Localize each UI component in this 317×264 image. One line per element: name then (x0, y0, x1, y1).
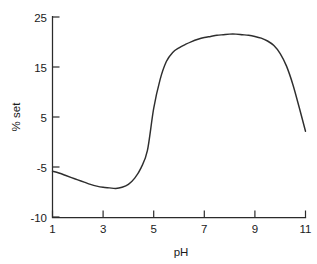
axis-frame (53, 17, 306, 218)
y-tick-labels: 25 15 5 -5 -10 (30, 12, 47, 224)
x-tick-label-7: 7 (201, 223, 207, 235)
x-tick-labels: 1 3 5 7 9 11 (49, 223, 311, 235)
y-tick-label-minus10: -10 (30, 212, 47, 224)
x-tick-label-3: 3 (100, 223, 106, 235)
x-tick-label-1: 1 (49, 223, 55, 235)
data-series-line (53, 34, 306, 188)
x-tick-label-9: 9 (252, 223, 258, 235)
y-tick-label-minus5: -5 (37, 162, 47, 174)
y-tick-label-25: 25 (34, 12, 47, 24)
x-tick-label-5: 5 (150, 223, 156, 235)
y-tick-label-15: 15 (34, 62, 47, 74)
line-chart-svg: 25 15 5 -5 -10 1 3 5 7 9 11 pH % set (0, 0, 317, 264)
y-axis-title: % set (10, 102, 22, 132)
x-axis-ticks (53, 211, 306, 218)
x-axis-title: pH (174, 246, 189, 258)
y-tick-label-5: 5 (41, 112, 47, 124)
chart-figure: 25 15 5 -5 -10 1 3 5 7 9 11 pH % set (0, 0, 317, 264)
x-tick-label-11: 11 (300, 223, 312, 235)
y-axis-ticks (53, 17, 60, 217)
